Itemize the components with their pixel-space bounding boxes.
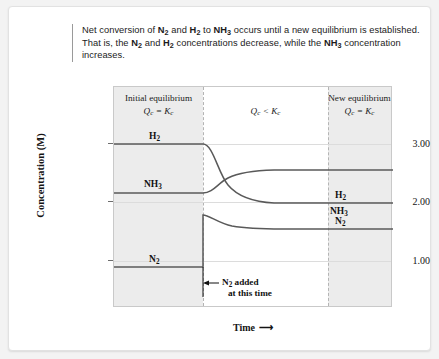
event-annotation-line1: N2 added	[222, 277, 259, 287]
figure-card: Net conversion of N2 and H2 to NH3 occur…	[8, 6, 431, 351]
figure-caption: Net conversion of N2 and H2 to NH3 occur…	[72, 24, 427, 62]
curves-svg	[114, 87, 393, 308]
page-root: Net conversion of N2 and H2 to NH3 occur…	[0, 0, 439, 359]
plot-area: Initial equilibrium Qc = Kc Qc < Kc New …	[113, 86, 392, 307]
series-label-nh3-left: NH3	[144, 179, 162, 189]
caption-text: Net conversion of N2 and H2 to NH3 occur…	[82, 25, 420, 60]
series-label-h2-left: H2	[149, 131, 160, 141]
x-axis-title: Time⟶	[113, 322, 392, 333]
series-label-n2-left: N2	[149, 254, 159, 264]
event-annotation-line2: at this time	[228, 288, 272, 299]
y-tick-label-3: 3.00	[396, 138, 430, 149]
curve-h2	[114, 144, 393, 203]
x-axis-title-text: Time	[233, 322, 255, 333]
series-label-n2-right: N2	[335, 216, 345, 226]
series-label-h2-right: H2	[335, 190, 346, 200]
series-label-nh3-right: NH3	[330, 206, 348, 216]
arrow-right-icon: ⟶	[259, 322, 272, 333]
y-tick-label-2: 2.00	[396, 196, 430, 207]
event-arrow-head	[203, 280, 209, 285]
y-axis-title: Concentration (M)	[35, 116, 46, 236]
event-annotation: N2 added at this time	[222, 277, 272, 299]
y-tick-label-1: 1.00	[396, 255, 430, 266]
